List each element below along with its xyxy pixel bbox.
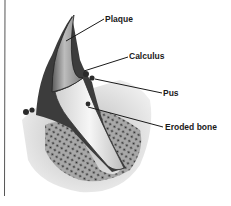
page-border-line — [5, 0, 6, 196]
label-pus: Pus — [163, 88, 179, 98]
label-calculus: Calculus — [129, 51, 164, 61]
calculus-leader-line — [84, 57, 128, 71]
tooth-diagram: Plaque Calculus Pus Eroded bone — [0, 0, 231, 206]
label-eroded-bone: Eroded bone — [165, 122, 217, 132]
tooth-illustration — [0, 0, 231, 206]
label-plaque: Plaque — [105, 14, 133, 24]
